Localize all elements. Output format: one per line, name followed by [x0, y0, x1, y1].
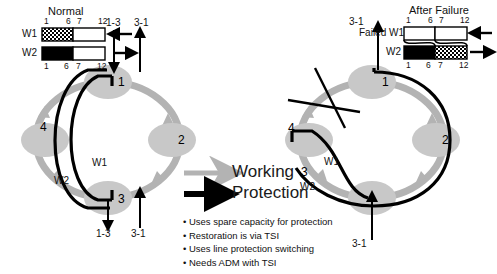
legend-af-tick-bottom-6: 6 [426, 61, 431, 70]
bullet-list: • Uses spare capacity for protection • R… [183, 216, 333, 270]
bullet-item: • Uses line protection switching [183, 243, 333, 254]
legend-normal-row-w1-label: W1 [22, 29, 37, 39]
legend-normal-tick-top-7: 7 [77, 17, 82, 26]
legend-normal-tick-bottom-6: 6 [64, 62, 69, 71]
bullet-item: • Uses spare capacity for protection [183, 216, 333, 227]
legend-normal-tick-bottom-1: 1 [44, 62, 49, 71]
legend-normal-graphics [42, 28, 132, 60]
key-protection-label: Protection [232, 184, 309, 201]
legend-af-tick-top-7: 7 [439, 16, 444, 25]
legend-af-tick-bottom-1: 1 [406, 61, 411, 70]
legend-af-tick-bottom-12: 12 [459, 61, 468, 70]
legend-af-tick-top-6: 6 [428, 16, 433, 25]
diagram-canvas: Normal 1 6 7 12 W1 W2 1 6 7 12 After Fai… [0, 0, 497, 274]
legend-af-tick-bottom-7: 7 [438, 61, 443, 70]
legend-normal-row-w2-label: W2 [22, 48, 37, 58]
bullet-item: • Restoration is via TSI [183, 230, 333, 241]
ring-right-flow-bottom-in: 3-1 [352, 239, 366, 249]
legend-af-tick-top-12: 12 [460, 16, 469, 25]
ring-left-node-2: 2 [178, 134, 185, 146]
ring-left-node-3: 3 [118, 193, 125, 205]
legend-af-row-failed-w1-label: Failed W1 [359, 28, 404, 38]
ring-right-flow-top-out: 3-1 [349, 17, 363, 27]
legend-after-failure-graphics [404, 27, 492, 59]
legend-normal-tick-bottom-12: 12 [97, 62, 106, 71]
ring-left-path-w2: W2 [54, 176, 69, 186]
ring-left-flow-bottom-out: 1-3 [96, 229, 110, 239]
legend-normal-tick-top-1: 1 [44, 17, 49, 26]
key-arrows [184, 173, 224, 194]
ring-left-path-w1: W1 [92, 158, 107, 168]
ring-right-path-w1: W1 [324, 157, 339, 167]
ring-left-flow-top-in: 1-3 [106, 18, 120, 28]
ring-left-nodes [21, 65, 196, 215]
legend-normal-tick-bottom-7: 7 [76, 62, 81, 71]
ring-left-flow-bottom-in: 3-1 [131, 229, 145, 239]
ring-right-node-1: 1 [382, 76, 389, 88]
ring-right-node-2: 2 [442, 134, 449, 146]
ring-left-node-1: 1 [118, 76, 125, 88]
ring-left-node-4: 4 [40, 121, 47, 133]
legend-af-tick-top-1: 1 [406, 16, 411, 25]
ring-right-nodes [285, 65, 460, 215]
ring-right-node-4: 4 [288, 122, 295, 134]
bullet-item: • Needs ADM with TSI [183, 257, 333, 268]
ring-left-flow-top-out: 3-1 [134, 18, 148, 28]
legend-normal-tick-top-6: 6 [66, 17, 71, 26]
legend-af-row-w2-label: W2 [386, 47, 401, 57]
key-working-label: Working [232, 163, 294, 180]
ring-right-node-3: 3 [301, 166, 308, 178]
